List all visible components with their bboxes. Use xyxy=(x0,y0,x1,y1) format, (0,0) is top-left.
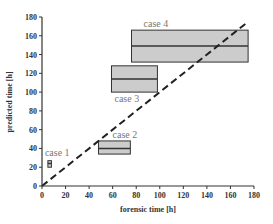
x-tick-label: 160 xyxy=(224,191,236,200)
x-tick-label: 40 xyxy=(85,191,93,200)
x-tick-label: 60 xyxy=(109,191,117,200)
y-tick-label: 100 xyxy=(25,88,37,97)
y-tick-label: 0 xyxy=(33,182,37,191)
case-label: case 2 xyxy=(113,129,138,140)
x-tick-label: 120 xyxy=(177,191,189,200)
case-box: case 1 xyxy=(45,147,70,168)
case-boxes: case 1case 2case 3case 4 xyxy=(45,18,248,167)
y-tick-label: 80 xyxy=(29,107,37,116)
y-axis-title: predicted time [h] xyxy=(5,71,14,133)
case-box: case 3 xyxy=(111,66,157,104)
y-tick-label: 20 xyxy=(29,163,37,172)
chart: case 1case 2case 3case 4 020406080100120… xyxy=(0,0,273,224)
x-tick-label: 100 xyxy=(154,191,166,200)
y-tick-label: 180 xyxy=(25,13,37,22)
x-axis-title: forensic time [h] xyxy=(120,205,176,214)
x-tick-label: 0 xyxy=(40,191,44,200)
case-box: case 2 xyxy=(99,129,138,154)
y-tick-label: 120 xyxy=(25,69,37,78)
x-tick-label: 80 xyxy=(132,191,140,200)
y-tick-label: 160 xyxy=(25,32,37,41)
y-tick-label: 140 xyxy=(25,51,37,60)
case-label: case 4 xyxy=(144,18,169,29)
x-tick-label: 180 xyxy=(248,191,260,200)
x-tick-label: 140 xyxy=(201,191,213,200)
case-box: case 4 xyxy=(132,18,249,62)
case-label: case 3 xyxy=(114,93,139,104)
y-tick-label: 60 xyxy=(29,126,37,135)
x-tick-label: 20 xyxy=(62,191,70,200)
y-tick-label: 40 xyxy=(29,144,37,153)
case-label: case 1 xyxy=(45,147,70,158)
